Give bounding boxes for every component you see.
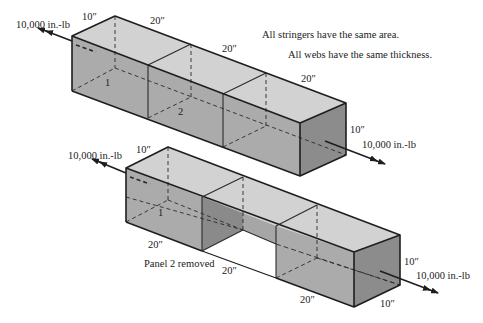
note-webs: All webs have the same thickness. xyxy=(288,49,432,60)
bottom-moment-right-label: 10,000 in.-lb xyxy=(416,270,470,281)
bottom-section-label-1: 1 xyxy=(158,207,163,218)
note-stringers: All stringers have the same area. xyxy=(262,29,399,40)
top-dim-bay2: 20″ xyxy=(222,43,237,54)
top-dim-bay1: 20″ xyxy=(150,15,165,26)
bottom-dim-bay2: 20″ xyxy=(222,265,237,276)
bottom-dim-depth-right: 10″ xyxy=(380,298,395,309)
top-dim-bay3: 20″ xyxy=(301,73,316,84)
bottom-moment-left-label: 10,000 in.-lb xyxy=(68,150,122,161)
top-moment-left-label: 10,000 in.-lb xyxy=(16,19,70,30)
bottom-box: 10,000 in.-lb 10″ 20″ Panel 2 removed 20… xyxy=(68,144,470,309)
bottom-dim-width-left: 10″ xyxy=(136,144,151,155)
bottom-moment-right-arrow-2nd-head xyxy=(424,288,430,290)
top-moment-left-arrow-2nd-head xyxy=(46,31,52,33)
bottom-dim-height-right: 10″ xyxy=(404,256,419,267)
top-section-label-1: 1 xyxy=(105,77,110,88)
top-dim-height-right: 10″ xyxy=(350,124,365,135)
torsion-box-diagram: 10,000 in.-lb 10″ 20″ 20″ 20″ 10″ 10,000… xyxy=(0,0,483,323)
bottom-caption: Panel 2 removed xyxy=(144,258,215,269)
bottom-dim-bay1: 20″ xyxy=(148,239,163,250)
top-dim-width-left: 10″ xyxy=(82,11,97,22)
bottom-dim-bay3: 20″ xyxy=(300,294,315,305)
bottom-moment-left-arrow xyxy=(92,159,126,173)
top-moment-right-label: 10,000 in.-lb xyxy=(362,139,416,150)
top-section-label-2: 2 xyxy=(178,106,183,117)
